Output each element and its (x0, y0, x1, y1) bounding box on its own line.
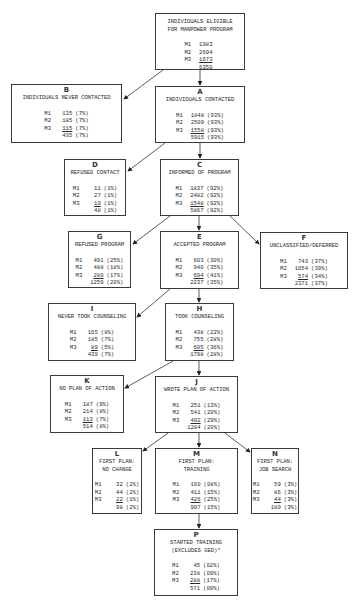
stat-count: 411 (185, 489, 201, 497)
stat-percent: (39%) (311, 265, 328, 272)
stat-count: 89 (82, 344, 98, 352)
node-stats: M11837(92%)M22482(92%)M31548(92%)5867(92… (176, 185, 224, 215)
stat-count: 574 (292, 273, 308, 281)
node-letter: C (161, 162, 238, 169)
stat-total-percent: (15%) (204, 504, 221, 511)
stat-label: M2 (173, 409, 185, 417)
node-title: WROTE PLAN OF ACTION (156, 386, 237, 394)
stat-row: M3426(25%) (173, 496, 221, 504)
stat-percent: (17%) (107, 272, 124, 279)
stat-count: 185 (82, 336, 98, 344)
stat-label: M3 (173, 496, 185, 504)
stat-row: M2214(8%) (65, 408, 109, 416)
stat-label: M1 (176, 185, 188, 193)
node-p: PSTARTED TRAINING (EXCLUDES GED)*M145(02… (154, 529, 238, 596)
stat-count: 2509 (188, 119, 204, 127)
stat-count: 2694 (197, 49, 213, 57)
stat-row: M31558(93%) (176, 127, 224, 135)
stat-row: M286(3%) (253, 489, 297, 497)
stat-row: M11837(92%) (176, 185, 224, 193)
stat-row: M31673 (185, 56, 216, 64)
stat-percent: (30%) (207, 257, 224, 264)
stat-total-count: 6350 (197, 64, 213, 72)
stat-percent: (8%) (96, 408, 109, 415)
stat-percent: (7%) (75, 110, 88, 117)
stat-percent: (13%) (204, 402, 221, 409)
stat-count: 113 (77, 416, 93, 424)
stat-label: M2 (173, 489, 185, 497)
stat-percent: (7%) (75, 125, 88, 132)
stat-percent: (20%) (204, 409, 221, 416)
stat-percent: (7%) (75, 117, 88, 124)
stat-label: M2 (172, 570, 184, 578)
stat-label: M2 (65, 408, 77, 416)
stat-count: 280 (88, 272, 104, 280)
stat-row: M1160(08%) (173, 481, 221, 489)
stat-percent: (1%) (104, 200, 117, 207)
stat-total-percent: (92%) (207, 207, 224, 214)
stat-row: M3115(7%) (44, 125, 88, 133)
node-n: NFIRST PLAN: JOB SEARCHM159(3%)M286(3%)M… (251, 448, 299, 514)
stat-percent: (18%) (107, 264, 124, 271)
node-stats: M159(3%)M286(3%)M344(3%)189(3%) (253, 481, 297, 511)
stat-percent: (22%) (207, 329, 224, 336)
stat-row: M31548(92%) (176, 200, 224, 208)
node-letter: E (161, 234, 238, 241)
stat-row: M1438(22%) (176, 329, 224, 337)
node-title: REFUSED CONTACT (65, 169, 125, 177)
node-title: FIRST PLAN: JOB SEARCH (252, 458, 298, 473)
stat-count: 488 (88, 264, 104, 272)
stat-label: M2 (44, 117, 56, 125)
stat-label: M2 (253, 489, 265, 497)
stat-total-row: 439(7%) (70, 351, 114, 359)
stat-count: 2482 (188, 192, 204, 200)
stat-total-count: 5915 (188, 134, 204, 142)
stat-row: M3113(7%) (65, 416, 109, 424)
stat-total-percent: (7%) (75, 132, 88, 139)
stat-row: M322(1%) (95, 496, 139, 504)
stat-percent: (25%) (204, 496, 221, 503)
stat-row: M3280(17%) (76, 272, 124, 280)
stat-count: 491 (88, 257, 104, 265)
stat-label: M1 (173, 481, 185, 489)
stat-label: M3 (185, 56, 197, 64)
stat-row: M145(02%) (172, 562, 220, 570)
stat-label: M1 (172, 562, 184, 570)
node-title: INDIVIDUALS ELIGIBLE FOR MANPOWER PROGRA… (156, 18, 244, 33)
node-e: EACCEPTED PROGRAMM1603(30%)M2940(35%)M36… (160, 231, 239, 289)
stat-count: 743 (292, 258, 308, 266)
stat-total-row: 514(8%) (65, 423, 109, 431)
node-stats: M111(1%)M227(1%)M310(1%)48(1%) (73, 185, 117, 215)
stat-total-percent: (20%) (107, 279, 124, 286)
stat-count: 603 (188, 257, 204, 265)
stat-row: M3694(41%) (176, 272, 224, 280)
stat-total-percent: (1%) (104, 207, 117, 214)
stat-label: M1 (44, 110, 56, 118)
stat-row: M111(1%) (73, 185, 117, 193)
stat-count: 160 (185, 481, 201, 489)
node-title: REFUSED PROGRAM (69, 241, 130, 249)
stat-total-row: 5867(92%) (176, 207, 224, 215)
stat-label: M3 (172, 577, 184, 585)
stat-label: M3 (176, 344, 188, 352)
node-m: MFIRST PLAN: TRAININGM1160(08%)M2411(15%… (155, 448, 238, 514)
stat-row: M1603(30%) (176, 257, 224, 265)
stat-percent: (3%) (284, 481, 297, 488)
stat-percent: (92%) (207, 200, 224, 207)
node-stats: M1491(25%)M2488(18%)M3280(17%)1259(20%) (76, 257, 124, 287)
stat-row: M1135(7%) (44, 110, 88, 118)
stat-count: 288 (184, 577, 200, 585)
stat-count: 214 (77, 408, 93, 416)
stat-label: M3 (76, 272, 88, 280)
stat-total-count: 5867 (188, 207, 204, 215)
stat-row: M3288(17%) (172, 577, 220, 585)
stat-count: 492 (185, 417, 201, 425)
stat-percent: (37%) (311, 258, 328, 265)
stat-row: M1187(9%) (65, 401, 109, 409)
stat-percent: (93%) (207, 112, 224, 119)
node-letter: B (12, 87, 121, 94)
stat-label: M3 (176, 127, 188, 135)
node-title: TOOK COUNSELING (166, 313, 233, 321)
stat-count: 541 (185, 409, 201, 417)
stat-total-percent: (3%) (284, 504, 297, 511)
